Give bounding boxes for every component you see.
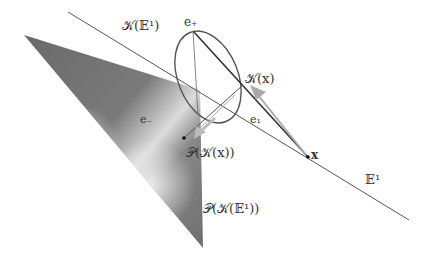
- label-e-1: e₁: [250, 113, 261, 126]
- label-proj-kappa-E1: 𝒫(𝒦(𝔼¹)): [203, 201, 259, 216]
- label-kappa-E1: 𝒦(𝔼¹): [122, 18, 159, 33]
- projected-cone-surface: [24, 35, 203, 248]
- line-eplus-to-x: [193, 31, 308, 157]
- label-e-minus: e₋: [140, 113, 153, 126]
- label-E1: 𝔼¹: [365, 172, 380, 187]
- point-x: [306, 155, 310, 159]
- label-kappa-x: 𝒦(x): [245, 71, 274, 86]
- surface-highlight-2: [24, 35, 203, 248]
- line-light-parallel: [198, 95, 235, 130]
- label-x: x: [311, 148, 319, 162]
- label-proj-kappa-x: 𝒫(𝒦(x)): [186, 145, 235, 160]
- label-e-plus: e₊: [184, 15, 197, 29]
- diagram-canvas: 𝒦(𝔼¹) e₊ 𝒦(x) e₁ e₋ 𝒫(𝒦(x)) x 𝔼¹ 𝒫(𝒦(𝔼¹)…: [0, 0, 427, 263]
- arrow-shaft: [258, 95, 306, 155]
- point-pkx: [182, 136, 186, 140]
- arrow-head-icon: [250, 85, 266, 100]
